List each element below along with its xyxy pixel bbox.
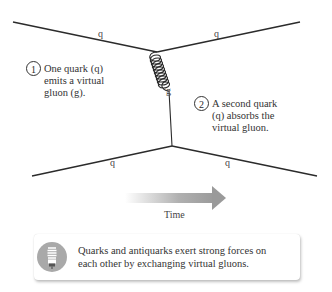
callout-box: Quarks and antiquarks exert strong force… [34,234,300,280]
step-2: 2 A second quark (q) absorbs the virtual… [194,98,277,134]
step-number-badge: 1 [26,61,41,76]
time-label: Time [164,209,185,220]
callout-text: Quarks and antiquarks exert strong force… [78,244,298,270]
quark-line-top-right [157,22,300,52]
particle-label-gluon: g [166,85,171,96]
particle-label-top-right: q [214,28,219,39]
quark-line-top-left [13,22,157,52]
step-description: A second quark (q) absorbs the virtual g… [212,98,277,134]
quark-line-bottom-left [32,146,172,176]
step-number-badge: 2 [194,96,209,111]
gluon-coil [150,52,172,146]
particle-label-bottom-left: q [110,157,115,168]
step-1: 1 One quark (q) emits a virtual gluon (g… [26,63,104,99]
time-arrow [125,186,226,210]
quark-line-bottom-right [172,146,317,176]
particle-label-bottom-right: q [225,157,230,168]
lightbulb-icon [37,242,67,272]
step-description: One quark (q) emits a virtual gluon (g). [44,63,104,99]
particle-label-top-left: q [98,28,103,39]
